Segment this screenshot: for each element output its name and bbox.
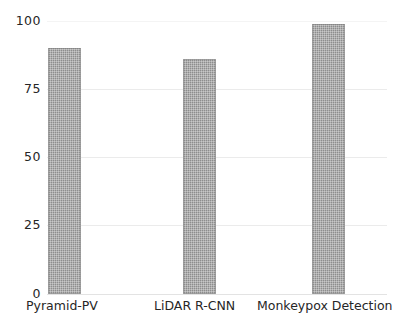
x-axis: Pyramid-PV LiDAR R-CNN Monkeypox Detecti… [0, 300, 393, 322]
bar-chart: 100 75 50 25 0 Pyramid-PV LiDAR R-CNN Mo… [0, 0, 393, 329]
x-tick-label-lidar-r-cnn: LiDAR R-CNN [154, 300, 235, 313]
x-tick-label-monkeypox-detection: Monkeypox Detection [257, 300, 393, 313]
y-tick-label-75: 75 [0, 83, 41, 96]
gridline-100 [47, 21, 387, 22]
gridline-0 [47, 294, 387, 295]
bar-pyramid-pv[interactable] [48, 48, 81, 294]
x-tick-label-pyramid-pv: Pyramid-PV [26, 300, 98, 313]
bar-lidar-r-cnn[interactable] [183, 59, 216, 294]
y-tick-label-50: 50 [0, 151, 41, 164]
plot-area [47, 18, 387, 297]
y-tick-label-100: 100 [0, 15, 41, 28]
bar-monkeypox-detection[interactable] [312, 24, 345, 294]
y-tick-label-25: 25 [0, 219, 41, 232]
